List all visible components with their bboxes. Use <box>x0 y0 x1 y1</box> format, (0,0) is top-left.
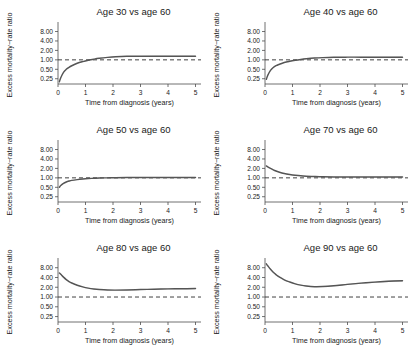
x-tick-label: 5 <box>194 89 198 96</box>
panel-title: Age 30 vs age 60 <box>97 6 171 17</box>
x-tick-label: 4 <box>166 327 170 334</box>
y-tick-label: 0.25 <box>40 193 53 200</box>
x-tick-label: 4 <box>373 89 377 96</box>
x-tick-label: 4 <box>166 89 170 96</box>
x-tick-label: 5 <box>194 207 198 214</box>
x-tick-label: 5 <box>194 327 198 334</box>
x-tick-label: 5 <box>401 327 405 334</box>
x-tick-label: 3 <box>346 327 350 334</box>
chart-panel: Age 30 vs age 600.250.501.002.004.008.00… <box>0 0 207 118</box>
estimate-curve <box>59 178 195 188</box>
y-tick-label: 0.50 <box>40 303 53 310</box>
y-tick-label: 0.25 <box>40 313 53 320</box>
y-tick-label: 0.50 <box>40 66 53 73</box>
y-tick-label: 4.00 <box>247 155 260 162</box>
x-tick-label: 5 <box>401 89 405 96</box>
chart-panel: Age 90 vs age 600.250.501.002.004.008.00… <box>207 236 414 356</box>
panel-title: Age 50 vs age 60 <box>97 124 171 135</box>
x-tick-label: 2 <box>318 89 322 96</box>
y-axis-label: Excess mortality−rate ratio <box>5 250 14 335</box>
chart-panel: Age 80 vs age 600.250.501.002.004.008.00… <box>0 236 207 356</box>
panel-title: Age 40 vs age 60 <box>304 6 378 17</box>
x-tick-label: 3 <box>346 89 350 96</box>
chart-panel: Age 70 vs age 600.250.501.002.004.008.00… <box>207 118 414 236</box>
x-tick-label: 0 <box>56 327 60 334</box>
panel-title: Age 80 vs age 60 <box>97 242 171 253</box>
y-tick-label: 2.00 <box>40 165 53 172</box>
y-tick-label: 0.50 <box>247 184 260 191</box>
estimate-curve <box>59 273 195 290</box>
confidence-band <box>59 273 195 291</box>
x-axis-label: Time from diagnosis (years) <box>85 336 174 345</box>
y-tick-label: 0.50 <box>247 66 260 73</box>
x-axis-label: Time from diagnosis (years) <box>292 216 381 225</box>
x-axis-label: Time from diagnosis (years) <box>85 216 174 225</box>
y-tick-label: 1.00 <box>247 56 260 63</box>
y-tick-label: 4.00 <box>40 274 53 281</box>
y-tick-label: 8.00 <box>247 28 260 35</box>
estimate-curve <box>266 166 402 177</box>
x-tick-label: 0 <box>56 207 60 214</box>
x-axis-label: Time from diagnosis (years) <box>85 98 174 107</box>
y-tick-label: 1.00 <box>40 174 53 181</box>
y-tick-label: 8.00 <box>247 264 260 271</box>
chart-panel: Age 50 vs age 600.250.501.002.004.008.00… <box>0 118 207 236</box>
estimate-curve <box>266 264 402 287</box>
estimate-curve <box>266 57 402 79</box>
confidence-band <box>266 166 402 178</box>
x-tick-label: 3 <box>139 327 143 334</box>
x-axis-label: Time from diagnosis (years) <box>292 98 381 107</box>
y-tick-label: 2.00 <box>247 47 260 54</box>
x-tick-label: 2 <box>111 207 115 214</box>
y-tick-label: 8.00 <box>40 264 53 271</box>
x-tick-label: 4 <box>373 207 377 214</box>
y-tick-label: 1.00 <box>247 293 260 300</box>
y-tick-label: 0.25 <box>40 75 53 82</box>
y-axis-label: Excess mortality−rate ratio <box>212 13 221 98</box>
y-tick-label: 2.00 <box>40 47 53 54</box>
y-tick-label: 0.25 <box>247 193 260 200</box>
y-tick-label: 4.00 <box>247 274 260 281</box>
y-tick-label: 2.00 <box>247 165 260 172</box>
x-tick-label: 1 <box>291 327 295 334</box>
y-tick-label: 1.00 <box>40 293 53 300</box>
x-tick-label: 1 <box>291 207 295 214</box>
x-tick-label: 1 <box>84 207 88 214</box>
x-tick-label: 3 <box>139 207 143 214</box>
x-tick-label: 2 <box>111 89 115 96</box>
y-tick-label: 8.00 <box>40 146 53 153</box>
x-tick-label: 5 <box>401 207 405 214</box>
x-tick-label: 1 <box>84 89 88 96</box>
y-tick-label: 1.00 <box>40 56 53 63</box>
x-axis-label: Time from diagnosis (years) <box>292 336 381 345</box>
x-tick-label: 2 <box>111 327 115 334</box>
x-tick-label: 1 <box>84 327 88 334</box>
x-tick-label: 2 <box>318 207 322 214</box>
y-tick-label: 4.00 <box>40 37 53 44</box>
x-tick-label: 2 <box>318 327 322 334</box>
y-tick-label: 2.00 <box>40 284 53 291</box>
y-tick-label: 0.50 <box>247 303 260 310</box>
x-tick-label: 1 <box>291 89 295 96</box>
y-axis-label: Excess mortality−rate ratio <box>212 250 221 335</box>
x-tick-label: 4 <box>373 327 377 334</box>
x-tick-label: 0 <box>56 89 60 96</box>
x-tick-label: 0 <box>263 207 267 214</box>
panel-grid: Age 30 vs age 600.250.501.002.004.008.00… <box>0 0 414 356</box>
y-tick-label: 0.25 <box>247 75 260 82</box>
x-tick-label: 0 <box>263 327 267 334</box>
confidence-band <box>266 263 402 287</box>
y-tick-label: 2.00 <box>247 284 260 291</box>
y-tick-label: 8.00 <box>40 28 53 35</box>
y-tick-label: 1.00 <box>247 174 260 181</box>
y-tick-label: 0.25 <box>247 313 260 320</box>
x-tick-label: 3 <box>346 207 350 214</box>
x-tick-label: 4 <box>166 207 170 214</box>
x-tick-label: 3 <box>139 89 143 96</box>
y-tick-label: 0.50 <box>40 184 53 191</box>
y-axis-label: Excess mortality−rate ratio <box>5 13 14 98</box>
y-axis-label: Excess mortality−rate ratio <box>212 131 221 216</box>
chart-panel: Age 40 vs age 600.250.501.002.004.008.00… <box>207 0 414 118</box>
y-tick-label: 4.00 <box>247 37 260 44</box>
y-tick-label: 8.00 <box>247 146 260 153</box>
